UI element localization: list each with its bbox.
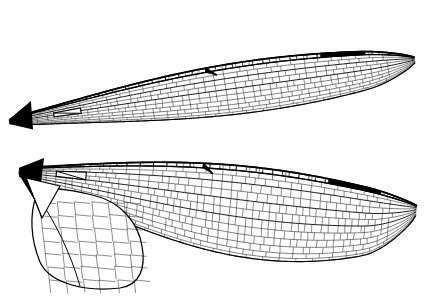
dragonfly-wings-svg <box>0 0 425 297</box>
wing-illustration-plate <box>0 0 425 297</box>
